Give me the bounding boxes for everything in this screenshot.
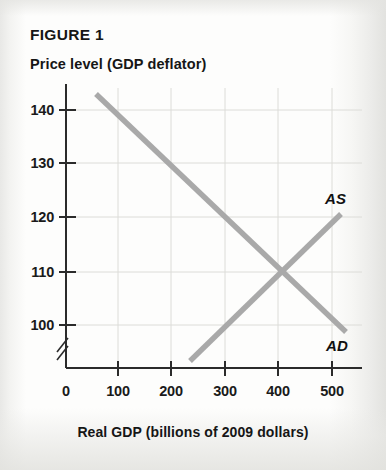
figure-page: FIGURE 1 Price level (GDP deflator) [0,0,386,470]
x-tick-label-0: 0 [39,383,93,399]
y-tick-label-100: 100 [10,317,54,333]
curve-label-ad: AD [326,337,348,354]
x-axis-title: Real GDP (billions of 2009 dollars) [0,424,386,440]
horizontal-gridlines [66,110,362,325]
x-tick-label-500: 500 [305,383,359,399]
x-tick-label-100: 100 [91,383,145,399]
curve-as [190,214,341,361]
y-tick-label-120: 120 [10,209,54,225]
x-tick-label-400: 400 [251,383,305,399]
y-tick-label-130: 130 [10,155,54,171]
curve-label-as: AS [325,190,346,207]
y-tick-label-140: 140 [10,102,54,118]
curve-ad [96,94,346,332]
x-tick-label-300: 300 [198,383,252,399]
y-tick-label-110: 110 [10,264,54,280]
y-axis-ticks [59,110,76,325]
chart-canvas [0,0,386,470]
x-tick-label-200: 200 [144,383,198,399]
